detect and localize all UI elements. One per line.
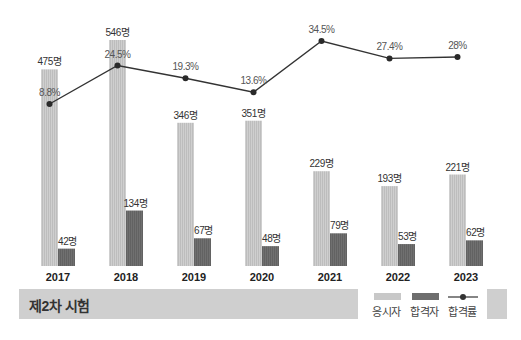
pass-rate-label: 34.5% <box>309 24 335 35</box>
pass-rate-label: 13.6% <box>241 75 267 86</box>
applicants-bar <box>449 175 466 266</box>
passers-bar <box>466 240 483 266</box>
pass-rate-label: 24.5% <box>105 49 131 60</box>
applicants-bar <box>245 121 262 266</box>
passers-value-label: 67명 <box>194 225 213 236</box>
passers-swatch <box>412 293 439 300</box>
passers-bar <box>262 246 279 266</box>
pass-rate-point <box>251 89 257 95</box>
passers-bar <box>126 211 143 266</box>
section-title: 제2차 시험 <box>29 295 90 315</box>
x-axis-year-label: 2021 <box>318 271 342 283</box>
applicants-value-label: 351명 <box>241 108 265 119</box>
applicants-value-label: 221명 <box>445 162 469 173</box>
legend-label: 합격률 <box>448 303 477 319</box>
passers-value-label: 79명 <box>330 220 349 231</box>
line-marker-icon <box>448 291 478 303</box>
applicants-bar <box>109 40 126 266</box>
pass-rate-point <box>183 75 189 81</box>
legend-label: 응시자 <box>372 303 401 319</box>
applicants-swatch <box>374 293 401 300</box>
x-axis-year-label: 2019 <box>182 271 206 283</box>
x-axis-year-label: 2018 <box>114 271 138 283</box>
applicants-value-label: 346명 <box>173 110 197 121</box>
pass-rate-point <box>387 55 393 61</box>
applicants-bar <box>41 69 58 266</box>
decorative-band <box>487 289 507 319</box>
section-title-band: 제2차 시험 <box>19 289 358 319</box>
applicants-bar <box>177 123 194 266</box>
pass-rate-point <box>115 63 121 69</box>
passers-value-label: 134명 <box>123 198 147 209</box>
applicants-value-label: 229명 <box>309 158 333 169</box>
applicants-value-label: 546명 <box>105 27 129 38</box>
passers-bar <box>330 233 347 266</box>
pass-rate-label: 28% <box>448 40 467 51</box>
passers-value-label: 48명 <box>262 233 281 244</box>
passers-value-label: 62명 <box>466 227 485 238</box>
applicants-value-label: 475명 <box>37 56 61 67</box>
passers-value-label: 53명 <box>398 231 417 242</box>
x-axis-year-label: 2017 <box>46 271 70 283</box>
legend-label: 합격자 <box>410 303 439 319</box>
x-axis-year-label: 2020 <box>250 271 274 283</box>
applicants-bar <box>313 171 330 266</box>
pass-rate-point <box>455 54 461 60</box>
pass-rate-label: 8.8% <box>39 87 60 98</box>
passers-bar <box>58 249 75 266</box>
pass-rate-label: 27.4% <box>377 41 403 52</box>
applicants-bar <box>381 186 398 266</box>
passers-bar <box>194 238 211 266</box>
chart-area: 475명42명2017546명134명2018346명67명2019351명48… <box>0 0 521 290</box>
x-axis-year-label: 2023 <box>454 271 478 283</box>
pass-rate-point <box>319 38 325 44</box>
pass-rate-label: 19.3% <box>173 61 199 72</box>
passers-bar <box>398 244 415 266</box>
applicants-value-label: 193명 <box>377 173 401 184</box>
x-axis-year-label: 2022 <box>386 271 410 283</box>
passers-value-label: 42명 <box>58 236 77 247</box>
pass-rate-point <box>47 101 53 107</box>
